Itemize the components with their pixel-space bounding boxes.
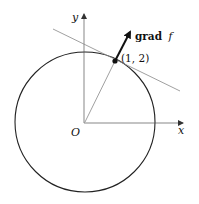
gradient-label-f: f: [167, 30, 174, 42]
point-label: (1, 2): [121, 52, 149, 64]
point-dot: [112, 58, 117, 63]
radius-line: [85, 61, 115, 122]
gradient-label-grad: grad: [135, 30, 163, 42]
x-axis-label: x: [178, 124, 185, 137]
origin-label: O: [71, 126, 80, 139]
y-axis-label: y: [71, 11, 79, 24]
gradient-diagram: y x O (1, 2) grad f: [0, 0, 199, 204]
gradient-label: grad f: [135, 30, 174, 42]
